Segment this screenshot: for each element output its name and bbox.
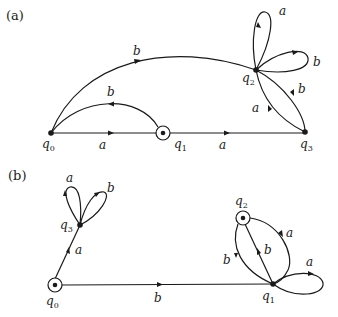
diagram-a: (a) a a b b a b b a q0	[6, 4, 321, 153]
state-a-q2	[253, 67, 259, 73]
edge-label-b-q3-loop-b: b	[107, 181, 115, 195]
edge-a-q3-q2	[256, 70, 305, 132]
edge-b-q1-loop-a	[273, 273, 323, 294]
arrow-icon	[257, 248, 261, 255]
arrow-icon	[108, 131, 114, 136]
arrow-icon	[94, 192, 100, 197]
edge-a-q0-q2	[51, 57, 256, 133]
state-label-b-q1: q1	[262, 289, 275, 305]
state-a-q3	[302, 129, 308, 135]
arrow-icon	[308, 271, 314, 276]
edge-label-b-q1-q2: b	[264, 243, 272, 257]
arrow-icon	[157, 282, 163, 287]
edge-label-a-q1-q3: a	[219, 138, 226, 152]
edge-label-b-q1-loop-a: a	[306, 255, 313, 269]
edge-a-q2-loop-a	[253, 12, 270, 70]
state-label-b-q3: q3	[60, 218, 73, 234]
state-label-a-q2: q2	[242, 71, 255, 87]
edge-label-b-q3-loop-a: a	[66, 171, 73, 185]
state-label-b-q0: q0	[46, 294, 59, 310]
state-a-q1	[161, 131, 166, 136]
edge-b-q3-loop-b	[80, 192, 107, 225]
edge-label-b-q0-q3: a	[75, 243, 82, 257]
state-b-q1	[270, 281, 276, 287]
edge-b-q3-loop-a	[66, 187, 81, 225]
edge-label-a-q3-q2: a	[252, 101, 259, 115]
edge-a-q1-q0	[51, 104, 158, 133]
edge-a-q2-q3	[256, 70, 305, 132]
arrow-icon	[224, 131, 230, 136]
edge-b-q0-q1	[62, 284, 273, 285]
state-b-q2	[241, 216, 246, 221]
arrow-icon	[234, 253, 238, 258]
state-b-q0	[53, 283, 58, 288]
edge-label-b-q2-q1-b: b	[223, 253, 231, 267]
edge-label-a-q0-q1: a	[99, 138, 106, 152]
edge-label-a-q0-q2: b	[133, 44, 141, 58]
edge-label-a-q2-loop-a: a	[279, 4, 286, 18]
edge-label-a-q2-q3: b	[298, 82, 306, 96]
panel-label-a: (a)	[6, 8, 24, 23]
state-label-a-q3: q3	[300, 137, 313, 153]
state-b-q3	[77, 222, 83, 228]
arrow-icon	[256, 22, 261, 28]
automata-figure: (a) a a b b a b b a q0	[0, 0, 338, 317]
arrow-icon	[108, 102, 114, 107]
arrow-icon	[290, 89, 294, 96]
edge-label-a-q2-loop-b: b	[313, 55, 321, 69]
state-a-q0	[48, 130, 54, 136]
edge-label-a-q1-q0: b	[107, 85, 115, 99]
state-label-b-q2: q2	[235, 194, 248, 210]
edge-label-b-q2-q1-a: a	[286, 226, 293, 240]
state-label-a-q0: q0	[42, 137, 55, 153]
diagram-b: (b) a b a b a b b a	[8, 168, 323, 310]
panel-label-b: (b)	[8, 168, 26, 183]
edge-label-b-q0-q1: b	[154, 291, 162, 305]
state-label-a-q1: q1	[174, 137, 187, 153]
